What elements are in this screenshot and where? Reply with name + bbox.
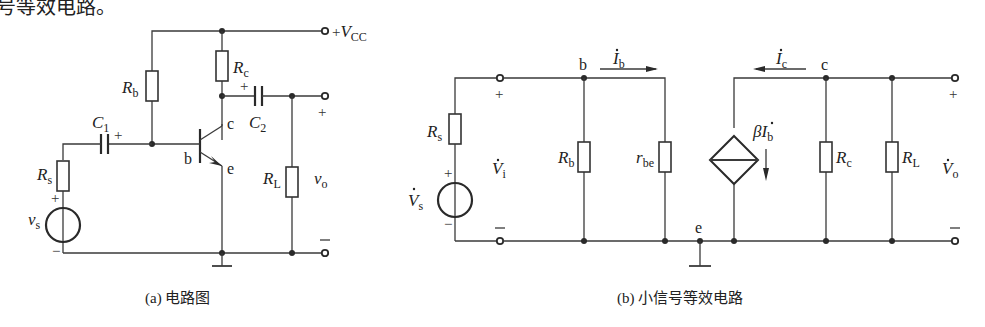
label-rl: RL — [901, 148, 920, 170]
input-plus-sign: + — [495, 86, 503, 102]
vs-plus-sign: + — [444, 165, 452, 181]
label-vs: Vs — [408, 191, 423, 213]
label-rc: Rc — [835, 148, 852, 170]
transistor-collector-leg — [200, 126, 222, 140]
caption-b: (b) 小信号等效电路 — [617, 289, 743, 307]
label-rbe: rbe — [636, 148, 654, 170]
input-minus-terminal — [497, 238, 503, 244]
resistor-rbe — [659, 142, 671, 172]
node-c: c — [821, 56, 828, 73]
node-e: e — [227, 160, 234, 177]
vcc-terminal — [322, 28, 328, 34]
resistor-rl — [886, 142, 898, 172]
node-b: b — [579, 56, 587, 73]
vcc-label: +VCC — [332, 22, 367, 44]
junction-dot — [581, 238, 587, 244]
header-text-fragment: 号等效电路。 — [0, 0, 116, 19]
junction-dot — [289, 250, 295, 256]
resistor-rs — [57, 161, 69, 191]
label-rb: Rb — [557, 148, 574, 170]
vcc-rail-wire — [152, 31, 322, 143]
label-vs: vs — [28, 210, 41, 232]
junction-dot — [823, 238, 829, 244]
vs-minus-sign: − — [444, 216, 452, 232]
resistor-rb — [146, 71, 158, 101]
ic-arrow-icon — [753, 66, 765, 72]
wire — [734, 78, 952, 128]
resistor-rb — [578, 142, 590, 172]
label-vo: vo — [314, 169, 328, 191]
label-rl: RL — [262, 169, 281, 191]
dot-accent — [413, 188, 415, 190]
dot-accent — [771, 122, 773, 124]
label-c2: C2 — [249, 113, 266, 135]
input-plus-terminal — [497, 75, 503, 81]
label-rc: Rc — [232, 58, 249, 80]
caption-a: (a) 电路图 — [145, 290, 210, 307]
circuit-figure: 号等效电路。 +VCC Rb Rc + C2 + RL vo — [0, 0, 985, 327]
node-e: e — [695, 219, 702, 236]
label-ic: Ic — [775, 49, 787, 71]
ib-arrow-icon — [646, 66, 658, 72]
resistor-rc — [820, 142, 832, 172]
figure-a-circuit: +VCC Rb Rc + C2 + RL vo c b e — [28, 22, 367, 307]
label-ib: Ib — [612, 49, 625, 71]
node-b: b — [184, 150, 192, 167]
output-plus-sign: + — [949, 86, 957, 102]
output-plus-terminal — [322, 93, 328, 99]
vs-minus-sign: − — [52, 243, 60, 259]
c1-plus-sign: + — [114, 127, 122, 143]
label-rb: Rb — [121, 78, 138, 100]
vs-plus-sign: + — [51, 190, 59, 206]
label-beta-ib: βIb — [752, 122, 773, 144]
junction-dot — [731, 238, 737, 244]
c2-plus-sign: + — [240, 78, 248, 94]
label-vi: Vi — [492, 159, 506, 181]
resistor-rs — [449, 114, 461, 144]
output-plus-terminal — [952, 75, 958, 81]
node-c: c — [227, 115, 234, 132]
label-c1: C1 — [92, 113, 109, 135]
output-minus-terminal — [322, 250, 328, 256]
label-vo: Vo — [942, 159, 958, 181]
junction-dot — [662, 238, 668, 244]
label-rs: Rs — [36, 165, 52, 187]
output-minus-terminal — [952, 238, 958, 244]
resistor-rc — [216, 51, 228, 81]
emitter-arrow-icon — [209, 156, 222, 166]
wire — [63, 144, 101, 160]
resistor-rl — [286, 167, 298, 197]
junction-dot — [889, 238, 895, 244]
label-rs: Rs — [426, 122, 442, 144]
figure-b-circuit: + b Ib Rs + Vs − Vi Rb rbe c + — [408, 49, 960, 307]
output-plus-sign: + — [318, 104, 326, 120]
source-arrow-icon — [763, 168, 769, 181]
